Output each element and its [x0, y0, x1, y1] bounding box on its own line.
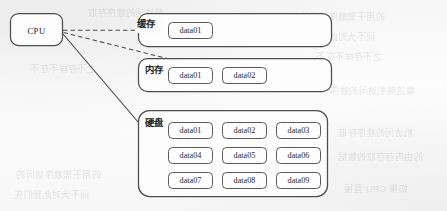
chip-label: data07 [180, 176, 202, 185]
chip-label: data01 [180, 26, 202, 35]
cpu-label: CPU [27, 26, 46, 36]
chip-label: data09 [288, 176, 310, 185]
chip-label: data01 [180, 71, 202, 80]
diagram-svg: CPU 缓存 data01 内存 data01 [0, 0, 447, 211]
disk-chip[interactable]: data09 [277, 173, 321, 189]
chip-label: data03 [288, 126, 310, 135]
cache-label: 缓存 [137, 18, 156, 29]
chip-label: data01 [180, 126, 202, 135]
chip-label: data02 [234, 71, 256, 80]
chip-label: data04 [180, 151, 202, 160]
cache-container[interactable]: 缓存 data01 [136, 14, 332, 47]
cache-chip[interactable]: data01 [169, 23, 213, 39]
disk-chip[interactable]: data04 [169, 148, 213, 164]
chip-label: data05 [234, 151, 256, 160]
figure-canvas: 的用于需顺序访问的 间不大对此我们先 之不存样不在不 章这随机访问的顺序 机访问… [0, 0, 447, 211]
chip-label: data08 [234, 176, 256, 185]
memory-chip[interactable]: data02 [223, 68, 267, 84]
disk-chip[interactable]: data06 [277, 148, 321, 164]
cpu-node[interactable]: CPU [11, 14, 63, 46]
disk-chip[interactable]: data08 [223, 173, 267, 189]
chip-label: data06 [288, 151, 310, 160]
disk-chip[interactable]: data07 [169, 173, 213, 189]
memory-label: 内存 [145, 64, 164, 75]
disk-chip[interactable]: data05 [223, 148, 267, 164]
disk-label: 硬盘 [145, 117, 164, 128]
disk-chip[interactable]: data03 [277, 123, 321, 139]
cache-box [139, 14, 332, 47]
disk-chip[interactable]: data01 [169, 123, 213, 139]
memory-chip[interactable]: data01 [169, 68, 213, 84]
disk-container[interactable]: 硬盘 data01 data02 data03 data04 data0 [139, 111, 328, 197]
disk-chip[interactable]: data02 [223, 123, 267, 139]
memory-container[interactable]: 内存 data01 data02 [139, 59, 332, 92]
chip-label: data02 [234, 126, 256, 135]
